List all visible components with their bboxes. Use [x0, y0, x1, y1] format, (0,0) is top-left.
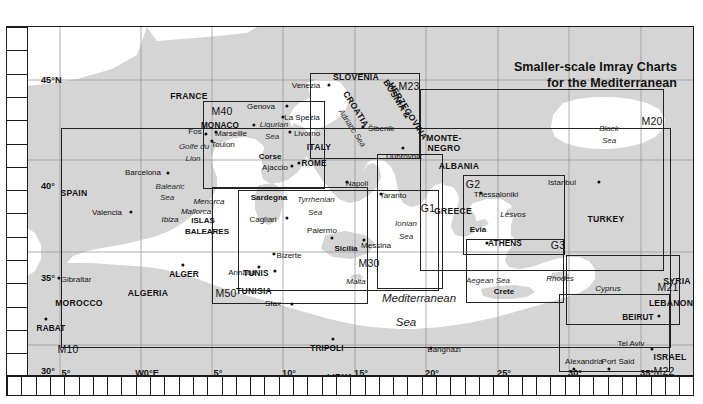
chart-box-g1[interactable] [377, 154, 443, 289]
map-frame: FRANCESPAINMOROCCOALGERIATUNISIALIBYAEGY… [6, 26, 694, 376]
title-line-2: for the Mediterranean [514, 75, 677, 91]
title-line-1: Smaller-scale Imray Charts [514, 59, 677, 75]
latitude-ruler-tick [7, 27, 27, 28]
latitude-ruler-tick [7, 190, 27, 191]
longitude-ruler-tick [393, 377, 394, 395]
map-canvas: FRANCESPAINMOROCCOALGERIATUNISIALIBYAEGY… [7, 27, 693, 375]
longitude-ruler-tick [479, 377, 480, 395]
imray-chart-index-page: FRANCESPAINMOROCCOALGERIATUNISIALIBYAEGY… [0, 0, 703, 404]
latitude-ruler [6, 26, 28, 376]
longitude-ruler-tick [7, 377, 8, 395]
longitude-ruler-tick [450, 377, 451, 395]
title-block: Smaller-scale Imray Charts for the Medit… [514, 59, 677, 91]
longitude-ruler [6, 376, 694, 396]
latitude-ruler-tick [7, 237, 27, 238]
longitude-ruler-tick [121, 377, 122, 395]
longitude-ruler-tick [93, 377, 94, 395]
longitude-ruler-tick [350, 377, 351, 395]
longitude-ruler-tick [379, 377, 380, 395]
longitude-ruler-tick [79, 377, 80, 395]
longitude-ruler-tick [593, 377, 594, 395]
longitude-ruler-tick [365, 377, 366, 395]
longitude-ruler-tick [465, 377, 466, 395]
longitude-ruler-tick [636, 377, 637, 395]
latitude-ruler-tick [7, 50, 27, 51]
longitude-ruler-tick [50, 377, 51, 395]
longitude-ruler-tick [550, 377, 551, 395]
longitude-ruler-tick [651, 377, 652, 395]
latitude-ruler-tick [7, 74, 27, 75]
longitude-ruler-tick [222, 377, 223, 395]
latitude-ruler-tick [7, 167, 27, 168]
longitude-ruler-tick [164, 377, 165, 395]
latitude-ruler-tick [7, 353, 27, 354]
longitude-ruler-tick [193, 377, 194, 395]
longitude-ruler-tick [21, 377, 22, 395]
longitude-ruler-tick [665, 377, 666, 395]
longitude-ruler-tick [493, 377, 494, 395]
longitude-ruler-tick [207, 377, 208, 395]
longitude-ruler-tick [150, 377, 151, 395]
latitude-ruler-tick [7, 97, 27, 98]
longitude-ruler-tick [64, 377, 65, 395]
longitude-ruler-tick [322, 377, 323, 395]
longitude-ruler-tick [565, 377, 566, 395]
longitude-ruler-tick [36, 377, 37, 395]
chart-box-g3[interactable] [466, 239, 564, 303]
longitude-ruler-tick [336, 377, 337, 395]
latitude-ruler-tick [7, 144, 27, 145]
longitude-ruler-tick [407, 377, 408, 395]
longitude-ruler-tick [136, 377, 137, 395]
longitude-ruler-tick [508, 377, 509, 395]
longitude-ruler-tick [250, 377, 251, 395]
longitude-ruler-tick [307, 377, 308, 395]
longitude-ruler-tick [608, 377, 609, 395]
longitude-ruler-tick [422, 377, 423, 395]
longitude-ruler-tick [236, 377, 237, 395]
longitude-ruler-tick [179, 377, 180, 395]
latitude-ruler-tick [7, 260, 27, 261]
longitude-ruler-tick [436, 377, 437, 395]
latitude-ruler-tick [7, 283, 27, 284]
longitude-ruler-tick [536, 377, 537, 395]
longitude-ruler-tick [107, 377, 108, 395]
longitude-ruler-tick [264, 377, 265, 395]
latitude-ruler-tick [7, 307, 27, 308]
chart-box-m22[interactable] [559, 294, 670, 372]
longitude-ruler-tick [522, 377, 523, 395]
longitude-ruler-tick [579, 377, 580, 395]
latitude-ruler-tick [7, 330, 27, 331]
longitude-ruler-tick [293, 377, 294, 395]
longitude-ruler-tick [279, 377, 280, 395]
latitude-ruler-tick [7, 213, 27, 214]
longitude-ruler-tick [679, 377, 680, 395]
longitude-ruler-tick [693, 377, 694, 395]
latitude-ruler-tick [7, 120, 27, 121]
longitude-ruler-tick [622, 377, 623, 395]
